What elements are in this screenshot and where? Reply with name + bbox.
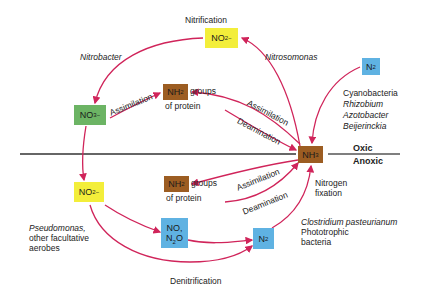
denitrification-label: Denitrification — [170, 276, 222, 286]
nh3-box: NH3 — [298, 146, 323, 163]
denitrifier-aerobes: aerobes — [29, 243, 60, 253]
fixer-azotobacter: Azotobacter — [343, 110, 388, 120]
nh2-upper-suffix: groups — [190, 86, 216, 96]
fixer-beijerinckia: Beijerinckia — [343, 121, 386, 131]
no2-bottom-formula: NO — [79, 187, 93, 197]
anoxic-fixer-bacteria: bacteria — [301, 237, 331, 247]
denitrifier-pseudomonas: Pseudomonas, — [29, 223, 86, 233]
anoxic-label: Anoxic — [353, 156, 383, 166]
n2o-formula: N2O — [166, 233, 183, 243]
oxic-label: Oxic — [353, 143, 373, 153]
nh2-upper-label-2: of protein — [165, 101, 200, 111]
no3-box: NO3− — [74, 105, 106, 125]
nitrogen-fixation-label-1: Nitrogen — [315, 178, 347, 188]
nitrification-label: Nitrification — [185, 15, 227, 25]
no-formula: NO, — [166, 223, 182, 233]
no2-top-box: NO2− — [205, 28, 238, 48]
nitrosomonas-label: Nitrosomonas — [265, 52, 317, 62]
nh2-upper-box: NH2 — [163, 84, 188, 100]
nh2-lower-formula: NH — [168, 179, 181, 189]
nh2-lower-box: NH2 — [164, 176, 189, 192]
n2-top-box: N2 — [362, 58, 380, 75]
n2o-rest: O — [176, 233, 183, 243]
n2-bottom-box: N2 — [253, 228, 274, 249]
fixer-rhizobium: Rhizobium — [343, 99, 383, 109]
nh2-lower-label-2: of protein — [166, 193, 201, 203]
nitrogen-fixation-label-2: fixation — [315, 188, 342, 198]
anoxic-fixer-clostridium: Clostridium pasteurianum — [301, 217, 397, 227]
nh2-upper-formula: NH — [167, 87, 180, 97]
nitrobacter-label: Nitrobacter — [80, 52, 122, 62]
nh2-lower-label: groups — [191, 178, 217, 188]
no2-top-formula: NO — [211, 33, 225, 43]
fixer-cyanobacteria: Cyanobacteria — [343, 88, 398, 98]
denitrifier-facultative: other facultative — [29, 233, 89, 243]
no2-bottom-box: NO2− — [74, 182, 104, 202]
no-n2o-box: NO, N2O — [161, 218, 188, 248]
n2-top-formula: N — [366, 62, 373, 72]
anoxic-fixer-phototrophic: Phototrophic — [301, 227, 349, 237]
no3-formula: NO — [80, 110, 94, 120]
nh3-formula: NH — [302, 150, 315, 160]
nh2-upper-label: groups — [190, 86, 216, 96]
